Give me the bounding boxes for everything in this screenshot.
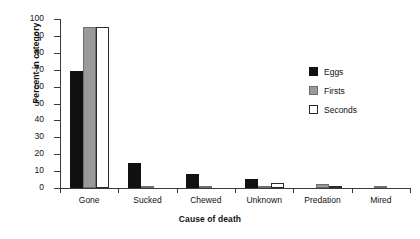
gray-filled-square-icon [309, 86, 318, 95]
chart-legend: EggsFirstsSeconds [309, 62, 409, 119]
x-axis-tick [293, 188, 294, 193]
x-axis-tick [177, 188, 178, 193]
x-axis-tick-label-mired: Mired [352, 196, 410, 205]
x-axis-tick-label-predation: Predation [293, 196, 351, 205]
bar-predation-firsts [316, 184, 329, 188]
x-axis-tick-label-unknown: Unknown [235, 196, 293, 205]
bar-predation-seconds [329, 186, 342, 188]
bar-gone-firsts [83, 27, 96, 188]
y-axis-tick [54, 154, 60, 155]
bar-mired-firsts [374, 186, 387, 188]
x-axis-tick-label-gone: Gone [60, 196, 118, 205]
x-axis-tick [410, 188, 411, 193]
legend-item-eggs[interactable]: Eggs [309, 62, 409, 81]
y-axis-tick-label: 20 [0, 149, 44, 158]
bar-gone-eggs [70, 71, 83, 188]
bar-chewed-eggs [186, 174, 199, 188]
bar-sucked-firsts [141, 186, 154, 188]
y-axis-tick-label: 40 [0, 115, 44, 124]
y-axis-tick [54, 171, 60, 172]
y-axis-tick [54, 70, 60, 71]
y-axis-tick [54, 53, 60, 54]
x-axis-tick-label-chewed: Chewed [177, 196, 235, 205]
y-axis-tick-label: 90 [0, 31, 44, 40]
bar-chewed-firsts [199, 186, 212, 188]
bar-sucked-eggs [128, 163, 141, 188]
y-axis-tick-label: 60 [0, 82, 44, 91]
x-axis-tick [60, 188, 61, 193]
bar-unknown-seconds [271, 183, 284, 188]
legend-item-label: Eggs [324, 67, 343, 77]
x-axis-tick [235, 188, 236, 193]
x-axis-title: Cause of death [60, 214, 360, 224]
y-axis-tick-label: 0 [0, 183, 44, 192]
bar-unknown-eggs [245, 179, 258, 188]
legend-item-seconds[interactable]: Seconds [309, 100, 409, 119]
y-axis-tick-label: 100 [0, 14, 44, 23]
black-filled-square-icon [309, 67, 318, 76]
legend-item-label: Seconds [324, 105, 357, 115]
y-axis-tick [54, 120, 60, 121]
y-axis-tick-label: 70 [0, 65, 44, 74]
legend-item-label: Firsts [324, 86, 345, 96]
legend-item-firsts[interactable]: Firsts [309, 81, 409, 100]
x-axis-tick [352, 188, 353, 193]
y-axis-tick-label: 50 [0, 99, 44, 108]
bar-unknown-firsts [258, 186, 271, 188]
y-axis-tick [54, 137, 60, 138]
white-outlined-square-icon [309, 105, 318, 114]
bar-gone-seconds [96, 27, 109, 188]
y-axis-tick [54, 19, 60, 20]
y-axis-tick [54, 104, 60, 105]
y-axis-tick-label: 80 [0, 48, 44, 57]
y-axis-tick-label: 10 [0, 166, 44, 175]
x-axis-tick [118, 188, 119, 193]
x-axis-tick-label-sucked: Sucked [118, 196, 176, 205]
y-axis-tick-label: 30 [0, 132, 44, 141]
bar-chart-figure: Percent in category Cause of death 01020… [0, 0, 420, 239]
y-axis-tick [54, 87, 60, 88]
y-axis-tick [54, 36, 60, 37]
